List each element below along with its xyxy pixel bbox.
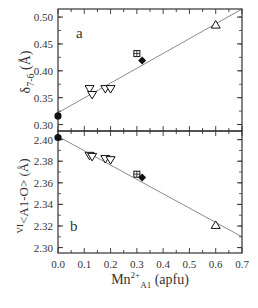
- y-tick-label: 2.38: [34, 155, 54, 167]
- chart-svg: 0.300.350.400.450.50 2.302.322.342.362.3…: [0, 0, 258, 308]
- marker-boxed-plus: [134, 171, 140, 177]
- x-tick-label: 0.6: [209, 258, 223, 270]
- chart-container: 0.300.350.400.450.50 2.302.322.342.362.3…: [0, 0, 258, 308]
- y-tick-label: 0.50: [34, 11, 54, 23]
- x-tick-label: 0.4: [156, 258, 170, 270]
- marker-filled-circle: [54, 112, 61, 119]
- y-tick-label: 0.35: [34, 92, 54, 104]
- y-tick-label: 0.30: [34, 119, 54, 131]
- x-axis-label: Mn2+A1 (apfu): [111, 270, 189, 290]
- y-tick-label: 2.34: [34, 198, 54, 210]
- y-tick-label: 2.40: [34, 134, 54, 146]
- y-tick-label: 2.30: [34, 242, 54, 254]
- panel-b: 2.302.322.342.362.382.400.00.10.20.30.40…: [34, 131, 250, 270]
- y-axis-label-b: VI<A1-O> (Å): [15, 158, 31, 233]
- x-tick-label: 0.2: [104, 258, 118, 270]
- fit-line: [58, 136, 242, 236]
- x-tick-label: 0.5: [183, 258, 197, 270]
- y-tick-label: 0.40: [34, 65, 54, 77]
- panel-a-label: a: [76, 25, 83, 41]
- y-tick-label: 2.36: [34, 177, 54, 189]
- x-tick-label: 0.3: [130, 258, 144, 270]
- panel-a: 0.300.350.400.450.50: [34, 9, 242, 131]
- marker-boxed-plus: [134, 51, 140, 57]
- y-tick-label: 2.32: [34, 220, 53, 232]
- marker-filled-circle: [54, 134, 61, 141]
- y-tick-label: 0.45: [34, 38, 54, 50]
- x-tick-label: 0.7: [235, 258, 249, 270]
- panel-b-label: b: [70, 218, 78, 234]
- plot-frame: [58, 131, 242, 253]
- x-tick-label: 0.0: [51, 258, 65, 270]
- x-tick-label: 0.1: [77, 258, 91, 270]
